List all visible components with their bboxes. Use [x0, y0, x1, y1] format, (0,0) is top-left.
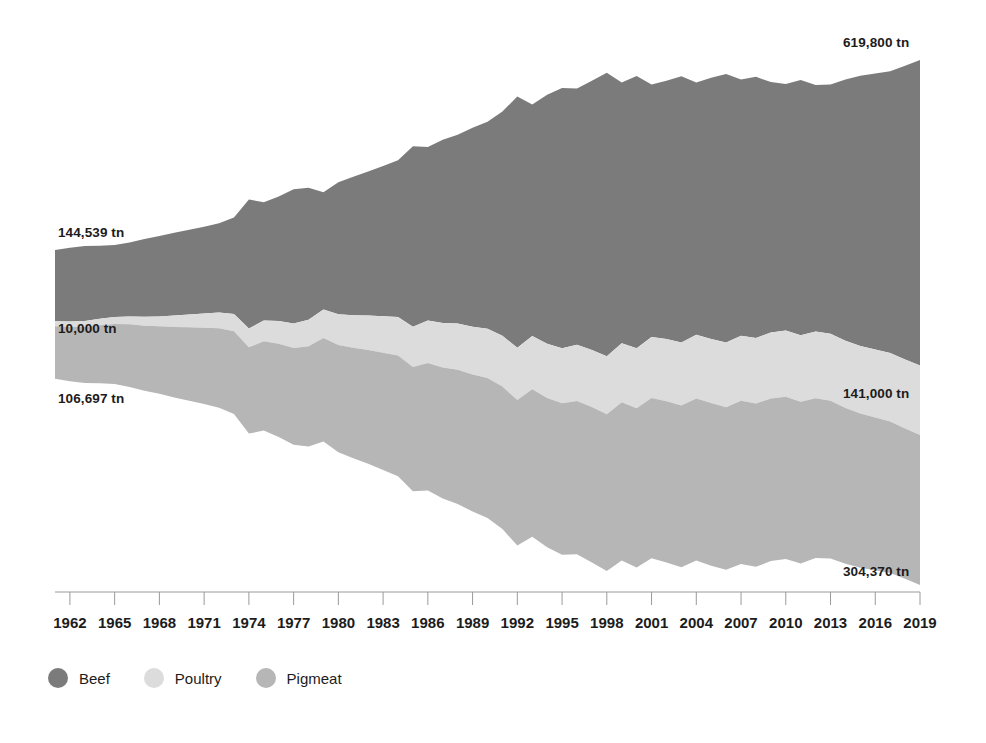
x-axis-tick-label: 2010 — [769, 614, 802, 631]
x-axis-tick-label: 2013 — [814, 614, 847, 631]
value-annotation-poultry-end: 141,000 tn — [843, 386, 909, 401]
x-axis-tick-label: 2016 — [859, 614, 892, 631]
x-axis-tick-label: 1971 — [187, 614, 220, 631]
value-annotation-pigmeat-end: 304,370 tn — [843, 564, 909, 579]
legend-swatch-icon — [256, 668, 276, 688]
streamgraph-chart: 144,539 tn10,000 tn106,697 tn619,800 tn1… — [0, 0, 986, 743]
x-axis-tick-label: 1983 — [366, 614, 399, 631]
value-annotation-pigmeat-start: 106,697 tn — [58, 391, 124, 406]
legend-swatch-icon — [144, 668, 164, 688]
x-axis-tick-label: 1998 — [590, 614, 623, 631]
x-axis-tick-label: 1995 — [545, 614, 578, 631]
value-annotation-beef-end: 619,800 tn — [843, 35, 909, 50]
value-annotation-beef-start: 144,539 tn — [58, 225, 124, 240]
x-axis-tick-label: 2001 — [635, 614, 668, 631]
chart-legend: BeefPoultryPigmeat — [48, 668, 376, 688]
x-axis-tick-label: 1974 — [232, 614, 265, 631]
legend-item-label: Pigmeat — [287, 670, 342, 687]
x-axis-tick-label: 2019 — [903, 614, 936, 631]
x-axis-tick-label: 2007 — [724, 614, 757, 631]
legend-item-poultry[interactable]: Poultry — [144, 668, 222, 688]
x-axis-tick-label: 1962 — [53, 614, 86, 631]
x-axis-tick-label: 1968 — [143, 614, 176, 631]
x-axis-tick-label: 1980 — [322, 614, 355, 631]
legend-item-label: Poultry — [175, 670, 222, 687]
legend-item-beef[interactable]: Beef — [48, 668, 110, 688]
x-axis-tick-label: 2004 — [680, 614, 713, 631]
value-annotation-poultry-start: 10,000 tn — [58, 321, 117, 336]
x-axis-tick-label: 1965 — [98, 614, 131, 631]
x-axis-tick-label: 1977 — [277, 614, 310, 631]
x-axis-tick-label: 1989 — [456, 614, 489, 631]
legend-swatch-icon — [48, 668, 68, 688]
stream-plot-area — [0, 0, 986, 743]
legend-item-pigmeat[interactable]: Pigmeat — [256, 668, 342, 688]
x-axis-tick-label: 1986 — [411, 614, 444, 631]
x-axis-tick-label: 1992 — [501, 614, 534, 631]
legend-item-label: Beef — [79, 670, 110, 687]
